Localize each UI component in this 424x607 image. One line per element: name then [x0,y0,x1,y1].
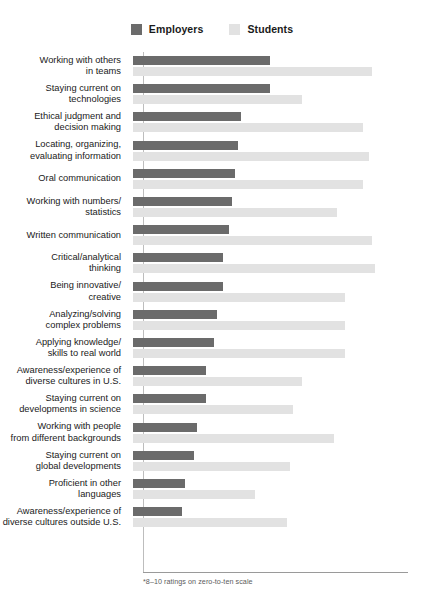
bar-students [133,377,302,386]
bar-group [130,503,424,531]
chart-row: Awareness/experience of diverse cultures… [0,503,424,531]
bar-employers [133,56,270,65]
bar-group [130,193,424,221]
category-label: Analyzing/solving complex problems [0,309,130,331]
chart-plot-area: Working with others in teamsStaying curr… [0,52,424,572]
chart-row: Staying current on technologies [0,80,424,108]
bar-students [133,434,334,443]
bar-group [130,52,424,80]
bar-group [130,334,424,362]
bar-employers [133,112,241,121]
bar-students [133,152,369,161]
category-label: Written communication [0,230,130,241]
bar-group [130,165,424,193]
bar-group [130,306,424,334]
chart-row: Critical/analytical thinking [0,249,424,277]
category-label: Working with others in teams [0,55,130,77]
bar-students [133,123,363,132]
bar-group [130,278,424,306]
bar-employers [133,282,223,291]
bar-employers [133,253,223,262]
category-label: Staying current on global developments [0,450,130,472]
bar-students [133,67,372,76]
chart-legend: Employers Students [0,24,424,35]
chart-row: Proficient in other languages [0,475,424,503]
bar-group [130,447,424,475]
bar-students [133,264,375,273]
category-label: Proficient in other languages [0,478,130,500]
bar-employers [133,141,238,150]
bar-students [133,518,287,527]
category-label: Critical/analytical thinking [0,252,130,274]
category-label: Awareness/experience of diverse cultures… [0,365,130,387]
bar-students [133,293,345,302]
bar-employers [133,197,232,206]
bar-students [133,180,363,189]
bar-students [133,208,337,217]
bar-employers [133,366,206,375]
bar-students [133,490,255,499]
category-label: Locating, organizing, evaluating informa… [0,139,130,161]
chart-row: Written communication [0,221,424,249]
bar-employers [133,225,229,234]
category-label: Working with people from different backg… [0,421,130,443]
legend-item-students: Students [229,24,293,35]
bar-employers [133,451,194,460]
bar-employers [133,479,185,488]
category-label: Staying current on technologies [0,83,130,105]
bar-students [133,321,345,330]
bar-employers [133,394,206,403]
bar-employers [133,338,214,347]
chart-row: Locating, organizing, evaluating informa… [0,137,424,165]
bar-group [130,108,424,136]
category-label: Staying current on developments in scien… [0,393,130,415]
category-label: Awareness/experience of diverse cultures… [0,506,130,528]
bar-group [130,390,424,418]
chart-row: Staying current on developments in scien… [0,390,424,418]
bar-group [130,80,424,108]
category-label: Being innovative/ creative [0,280,130,302]
legend-label-employers: Employers [149,24,204,35]
chart-row: Working with others in teams [0,52,424,80]
chart-container: Employers Students Working with others i… [0,0,424,607]
chart-row: Applying knowledge/ skills to real world [0,334,424,362]
bar-students [133,405,293,414]
bar-employers [133,310,217,319]
bar-students [133,236,372,245]
chart-row: Analyzing/solving complex problems [0,306,424,334]
chart-footnote: *8–10 ratings on zero-to-ten scale [143,577,253,586]
legend-label-students: Students [247,24,293,35]
legend-swatch-employers [131,24,142,35]
chart-row: Ethical judgment and decision making [0,108,424,136]
bar-employers [133,169,235,178]
bar-group [130,362,424,390]
bar-employers [133,507,182,516]
bar-group [130,418,424,446]
chart-row: Staying current on global developments [0,447,424,475]
chart-row: Working with people from different backg… [0,418,424,446]
bar-group [130,475,424,503]
bar-students [133,462,290,471]
chart-row: Being innovative/ creative [0,278,424,306]
bar-students [133,349,345,358]
bar-group [130,221,424,249]
category-label: Oral communication [0,173,130,184]
legend-item-employers: Employers [131,24,204,35]
category-label: Ethical judgment and decision making [0,111,130,133]
legend-swatch-students [229,24,240,35]
bar-group [130,137,424,165]
bar-employers [133,423,197,432]
chart-row: Working with numbers/ statistics [0,193,424,221]
bar-group [130,249,424,277]
chart-row: Oral communication [0,165,424,193]
chart-row: Awareness/experience of diverse cultures… [0,362,424,390]
category-label: Applying knowledge/ skills to real world [0,337,130,359]
bar-employers [133,84,270,93]
category-label: Working with numbers/ statistics [0,196,130,218]
x-axis-line [143,572,408,573]
bar-students [133,95,302,104]
